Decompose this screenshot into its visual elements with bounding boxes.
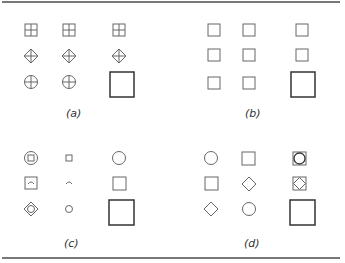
panel-d-symbols (204, 152, 315, 226)
square-icon (243, 77, 255, 89)
square-icon (296, 49, 308, 61)
large-square-icon (110, 72, 134, 97)
diamond-icon (242, 177, 256, 191)
boxed-arc-icon (25, 177, 37, 189)
circle-in-square-icon (293, 152, 306, 165)
circle-cross-icon (25, 76, 38, 89)
small-circle-icon (66, 206, 73, 213)
square-icon (208, 24, 220, 36)
square-icon (296, 24, 308, 36)
square-cross-icon (113, 24, 125, 36)
circle-icon (113, 152, 126, 165)
figure-canvas (0, 0, 345, 263)
large-square-icon (291, 72, 315, 97)
large-square-icon (290, 200, 315, 225)
diamond-in-square-icon (293, 177, 306, 190)
panel-a-label: (a) (66, 107, 81, 120)
square-icon (208, 77, 220, 89)
square-cross-icon (63, 24, 75, 36)
panel-c-label: (c) (64, 237, 79, 250)
square-cross-icon (25, 24, 37, 36)
panel-a-symbols (24, 24, 134, 97)
large-square-icon (109, 200, 134, 225)
panel-d-label: (d) (244, 237, 260, 250)
circle-icon (205, 152, 218, 165)
diamond-circle-icon (24, 202, 38, 216)
panel-c-symbols (24, 152, 134, 226)
square-icon (208, 49, 220, 61)
small-square-icon (66, 155, 72, 161)
panel-b-symbols (208, 24, 315, 97)
circle-icon (243, 203, 256, 216)
square-icon (242, 152, 255, 165)
square-icon (113, 177, 126, 190)
circle-square-icon (25, 152, 38, 165)
square-icon (205, 177, 218, 190)
diamond-icon (204, 202, 218, 216)
arc-icon (66, 182, 72, 184)
square-icon (243, 49, 255, 61)
diamond-cross-icon (24, 49, 38, 63)
circle-cross-icon (63, 76, 76, 89)
diamond-cross-icon (62, 49, 76, 63)
square-icon (243, 24, 255, 36)
diamond-cross-icon (112, 49, 126, 63)
panel-b-label: (b) (245, 107, 261, 120)
